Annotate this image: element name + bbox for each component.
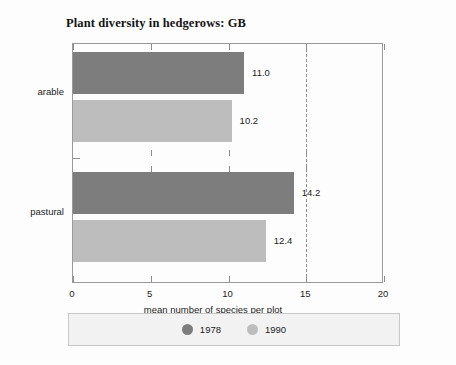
x-tick-mid-lower-10: [229, 166, 230, 172]
bar-pastural-1990: [73, 220, 266, 262]
x-tick-bottom-10: [229, 276, 230, 282]
x-tick-bottom-5: [151, 276, 152, 282]
legend-label-1990: 1990: [265, 324, 286, 335]
x-tick-label-0: 0: [69, 288, 74, 299]
x-tick-label-10: 10: [222, 288, 233, 299]
x-tick-top-10: [229, 44, 230, 50]
x-tick-mid-upper-15: [306, 150, 307, 156]
x-tick-label-5: 5: [147, 288, 152, 299]
plot-area: 11.010.214.212.4: [72, 43, 383, 283]
legend-swatch-circle-icon: [247, 324, 258, 335]
chart-title: Plant diversity in hedgerows: GB: [66, 16, 246, 31]
x-tick-mid-lower-15: [306, 166, 307, 172]
legend-entry-1990[interactable]: 1990: [247, 324, 286, 335]
bar-arable-1990: [73, 100, 232, 142]
x-tick-bottom-20: [384, 276, 385, 282]
legend-label-1978: 1978: [200, 324, 221, 335]
x-tick-mid-upper-5: [151, 150, 152, 156]
bar-value-label: 12.4: [274, 235, 293, 246]
x-tick-label-20: 20: [378, 288, 389, 299]
x-tick-mid-lower-5: [151, 166, 152, 172]
x-tick-top-5: [151, 44, 152, 50]
chart-legend: 1978 1990: [68, 313, 400, 346]
bar-value-label: 11.0: [252, 67, 270, 78]
x-tick-mid-upper-10: [229, 150, 230, 156]
category-label-pastural: pastural: [30, 206, 64, 217]
x-tick-top-0: [73, 44, 74, 50]
bar-arable-1978: [73, 52, 244, 94]
category-separator-tick: [73, 158, 80, 159]
plot-inner: 11.010.214.212.4: [73, 44, 382, 282]
x-tick-bottom-0: [73, 276, 74, 282]
bar-value-label: 14.2: [302, 187, 321, 198]
reference-line-15: [306, 44, 307, 282]
legend-swatch-circle-icon: [182, 324, 193, 335]
x-tick-label-15: 15: [300, 288, 311, 299]
bar-pastural-1978: [73, 172, 294, 214]
x-tick-top-20: [384, 44, 385, 50]
x-tick-bottom-15: [306, 276, 307, 282]
bar-value-label: 10.2: [240, 115, 259, 126]
chart-figure: Plant diversity in hedgerows: GB 11.010.…: [0, 0, 456, 365]
legend-entry-1978[interactable]: 1978: [182, 324, 221, 335]
category-label-arable: arable: [38, 86, 64, 97]
x-tick-top-15: [306, 44, 307, 50]
